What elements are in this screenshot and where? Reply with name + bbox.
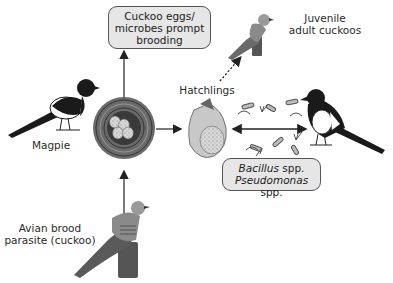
parasite-label: Avian brood parasite (cuckoo) bbox=[4, 222, 96, 246]
egg bbox=[113, 127, 124, 139]
juvenile-cuckoo-illustration bbox=[228, 14, 274, 60]
parasite-label-line-2: parasite (cuckoo) bbox=[4, 234, 96, 246]
magpie-left-illustration bbox=[8, 79, 100, 138]
pseudomonas-genus: Pseudomonas bbox=[235, 174, 308, 186]
parasite-label-line-1: Avian brood bbox=[4, 222, 96, 234]
brooding-prompt-box: Cuckoo eggs/ microbes prompt brooding bbox=[108, 6, 211, 49]
brooding-box-line-3: brooding bbox=[113, 34, 206, 46]
pseudomonas-spp: spp. bbox=[260, 186, 282, 198]
egg bbox=[123, 127, 134, 139]
bacillus-genus: Bacillus bbox=[239, 162, 279, 174]
bacteria-line-2: Pseudomonas spp. bbox=[227, 174, 316, 198]
brooding-box-line-2: microbes prompt bbox=[113, 22, 206, 34]
brooding-box-line-1: Cuckoo eggs/ bbox=[113, 10, 206, 22]
juvenile-label-line-1: Juvenile bbox=[280, 12, 370, 24]
magpie-right-illustration bbox=[300, 89, 385, 154]
hatchling-illustration bbox=[189, 98, 227, 158]
nest-illustration bbox=[93, 97, 155, 159]
magpie-label: Magpie bbox=[26, 139, 76, 151]
hatchlings-label: Hatchlings bbox=[176, 84, 238, 96]
juvenile-label-line-2: adult cuckoos bbox=[280, 24, 370, 36]
juvenile-label: Juvenile adult cuckoos bbox=[280, 12, 370, 36]
microbes-illustration bbox=[238, 99, 302, 156]
bacillus-spp: spp. bbox=[279, 162, 304, 174]
bacteria-box: Bacillus spp. Pseudomonas spp. bbox=[222, 158, 321, 191]
arrow-hatchlings-to-juvenile-dotted bbox=[220, 58, 240, 81]
bacteria-line-1: Bacillus spp. bbox=[227, 162, 316, 174]
